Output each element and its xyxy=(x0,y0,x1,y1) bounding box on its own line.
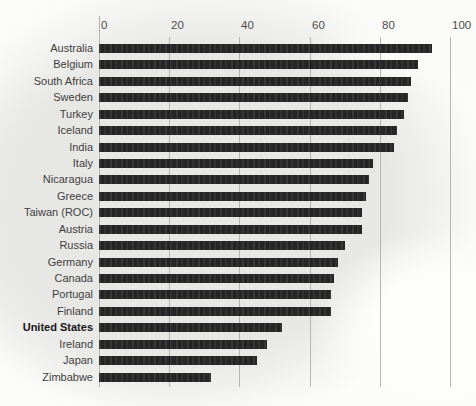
bar-zimbabwe xyxy=(99,373,211,382)
x-axis-tick-label: 80 xyxy=(382,18,395,32)
x-axis-tick-label: 100 xyxy=(452,18,471,32)
bar-belgium xyxy=(99,60,418,69)
country-label: Nicaragua xyxy=(0,172,93,187)
gridline-80 xyxy=(380,37,381,387)
country-label: Japan xyxy=(0,353,93,368)
country-label: Iceland xyxy=(0,123,93,138)
bar-canada xyxy=(99,274,334,283)
bar-greece xyxy=(99,192,366,201)
bar-australia xyxy=(99,44,432,53)
country-label: Belgium xyxy=(0,57,93,72)
country-label: Zimbabwe xyxy=(0,370,93,385)
bar-iceland xyxy=(99,126,397,135)
country-label: Austria xyxy=(0,222,93,237)
country-label: Germany xyxy=(0,255,93,270)
bar-sweden xyxy=(99,93,408,102)
country-label: Portugal xyxy=(0,287,93,302)
country-label: Taiwan (ROC) xyxy=(0,205,93,220)
country-label: Canada xyxy=(0,271,93,286)
country-label: Ireland xyxy=(0,337,93,352)
bar-nicaragua xyxy=(99,175,369,184)
country-label: South Africa xyxy=(0,74,93,89)
bar-austria xyxy=(99,225,362,234)
country-label: United States xyxy=(0,320,93,335)
bar-ireland xyxy=(99,340,267,349)
gridline-100 xyxy=(450,37,451,387)
bar-united-states xyxy=(99,323,282,332)
country-label: Australia xyxy=(0,41,93,56)
bar-india xyxy=(99,143,394,152)
bar-chart: 020406080100AustraliaBelgiumSouth Africa… xyxy=(0,0,476,406)
bar-germany xyxy=(99,258,338,267)
country-label: Sweden xyxy=(0,90,93,105)
bar-italy xyxy=(99,159,373,168)
scanned-bar-chart-page: 020406080100AustraliaBelgiumSouth Africa… xyxy=(0,0,476,406)
bar-turkey xyxy=(99,110,404,119)
bar-finland xyxy=(99,307,331,316)
x-axis-tick-label: 40 xyxy=(241,18,254,32)
country-label: India xyxy=(0,140,93,155)
bar-south-africa xyxy=(99,77,411,86)
country-label: Turkey xyxy=(0,107,93,122)
country-label: Finland xyxy=(0,304,93,319)
x-axis-tick-label: 20 xyxy=(171,18,184,32)
country-label: Russia xyxy=(0,238,93,253)
bar-taiwan-roc xyxy=(99,208,362,217)
x-axis-tick-label: 60 xyxy=(312,18,325,32)
bar-russia xyxy=(99,241,345,250)
x-axis-tick-label: 0 xyxy=(101,18,107,32)
bar-japan xyxy=(99,356,257,365)
country-label: Italy xyxy=(0,156,93,171)
bar-portugal xyxy=(99,290,331,299)
country-label: Greece xyxy=(0,189,93,204)
